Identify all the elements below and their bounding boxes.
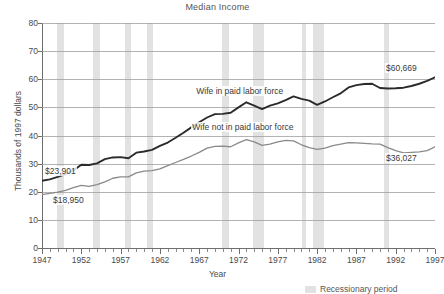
x-tick-minor xyxy=(419,249,420,252)
y-tick-mark xyxy=(38,136,42,137)
x-tick-major xyxy=(42,249,43,254)
x-tick-minor xyxy=(215,249,216,252)
plot-inner xyxy=(42,23,435,248)
x-tick-major xyxy=(160,249,161,254)
x-tick-minor xyxy=(427,249,428,252)
x-tick-minor xyxy=(136,249,137,252)
x-tick-minor xyxy=(380,249,381,252)
x-tick-minor xyxy=(58,249,59,252)
x-tick-label: 1952 xyxy=(72,255,91,265)
x-tick-major xyxy=(317,249,318,254)
plot-area xyxy=(42,23,435,248)
x-axis-title: Year xyxy=(0,269,435,279)
x-tick-minor xyxy=(294,249,295,252)
x-tick-minor xyxy=(191,249,192,252)
y-tick-mark xyxy=(38,51,42,52)
x-tick-minor xyxy=(341,249,342,252)
x-tick-minor xyxy=(128,249,129,252)
y-tick-mark xyxy=(38,220,42,221)
end-value-wife-in-labor-force: $60,669 xyxy=(385,63,418,73)
legend-label: Recessionary period xyxy=(320,284,397,294)
x-tick-label: 1967 xyxy=(190,255,209,265)
x-tick-minor xyxy=(223,249,224,252)
y-tick-mark xyxy=(38,79,42,80)
chart-title: Median Income xyxy=(0,2,435,12)
x-tick-minor xyxy=(50,249,51,252)
x-tick-major xyxy=(396,249,397,254)
x-tick-major xyxy=(278,249,279,254)
start-value-wife-not-in-labor-force: $18,950 xyxy=(52,195,85,205)
x-tick-label: 1997 xyxy=(426,255,444,265)
series-annotation: Wife in paid labor force xyxy=(195,86,284,96)
y-tick-mark xyxy=(38,248,42,249)
x-tick-major xyxy=(435,249,436,254)
x-tick-label: 1982 xyxy=(308,255,327,265)
recession-swatch-icon xyxy=(305,286,316,293)
x-tick-minor xyxy=(388,249,389,252)
x-tick-major xyxy=(121,249,122,254)
x-tick-minor xyxy=(262,249,263,252)
x-tick-minor xyxy=(333,249,334,252)
start-value-wife-in-labor-force: $23,901 xyxy=(44,166,77,176)
x-tick-minor xyxy=(97,249,98,252)
x-tick-label: 1947 xyxy=(33,255,52,265)
x-tick-major xyxy=(81,249,82,254)
x-tick-minor xyxy=(246,249,247,252)
x-tick-minor xyxy=(325,249,326,252)
x-tick-minor xyxy=(309,249,310,252)
series-line-wife-not-in-labor-force xyxy=(42,140,435,195)
x-tick-minor xyxy=(183,249,184,252)
x-tick-minor xyxy=(176,249,177,252)
x-tick-label: 1972 xyxy=(229,255,248,265)
x-tick-minor xyxy=(113,249,114,252)
x-tick-major xyxy=(356,249,357,254)
x-tick-major xyxy=(239,249,240,254)
x-tick-minor xyxy=(207,249,208,252)
x-tick-major xyxy=(199,249,200,254)
series-lines xyxy=(42,23,435,248)
y-tick-mark xyxy=(38,164,42,165)
x-tick-minor xyxy=(254,249,255,252)
x-tick-minor xyxy=(270,249,271,252)
y-tick-mark xyxy=(38,107,42,108)
x-tick-minor xyxy=(105,249,106,252)
x-tick-minor xyxy=(152,249,153,252)
x-tick-minor xyxy=(372,249,373,252)
x-tick-minor xyxy=(404,249,405,252)
x-tick-minor xyxy=(66,249,67,252)
x-tick-minor xyxy=(231,249,232,252)
x-tick-minor xyxy=(73,249,74,252)
x-tick-minor xyxy=(364,249,365,252)
x-tick-minor xyxy=(301,249,302,252)
x-tick-minor xyxy=(144,249,145,252)
y-tick-mark xyxy=(38,23,42,24)
x-tick-label: 1962 xyxy=(150,255,169,265)
x-tick-minor xyxy=(286,249,287,252)
y-axis-title: Thousands of 1997 dollars xyxy=(13,26,23,256)
x-tick-label: 1987 xyxy=(347,255,366,265)
x-tick-label: 1977 xyxy=(268,255,287,265)
x-tick-minor xyxy=(411,249,412,252)
legend: Recessionary period xyxy=(305,284,397,294)
x-tick-label: 1992 xyxy=(386,255,405,265)
x-tick-minor xyxy=(89,249,90,252)
series-annotation: Wife not in paid labor force xyxy=(191,122,294,132)
x-tick-label: 1957 xyxy=(111,255,130,265)
end-value-wife-not-in-labor-force: $36,027 xyxy=(385,153,418,163)
x-tick-minor xyxy=(168,249,169,252)
y-tick-mark xyxy=(38,192,42,193)
x-tick-minor xyxy=(349,249,350,252)
